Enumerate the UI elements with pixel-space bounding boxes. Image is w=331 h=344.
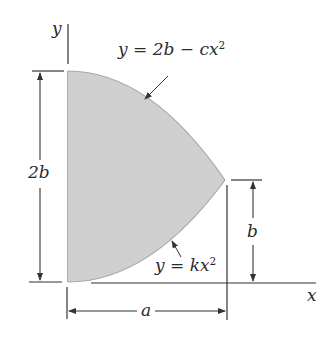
upper-eq-term-a: 2b <box>153 39 175 59</box>
lower-eq-equals: = <box>170 255 184 275</box>
x-axis-label: x <box>307 287 317 304</box>
upper-eq-exponent: 2 <box>219 39 226 51</box>
upper-eq-equals: = <box>133 39 147 59</box>
upper-eq-minus: − <box>180 39 194 59</box>
upper-curve-equation: y = 2b − cx2 <box>118 40 225 58</box>
lower-eq-lhs: y <box>155 255 165 275</box>
upper-eq-term-b: cx <box>199 39 218 59</box>
y-axis-label: y <box>52 20 62 37</box>
leader-arrow-upper <box>145 76 168 99</box>
diagram-figure: y x y = 2b − cx2 y = kx2 2b b a <box>0 0 331 344</box>
upper-eq-lhs: y <box>118 39 128 59</box>
dimension-label-2b: 2b <box>28 164 50 181</box>
dimension-label-a: a <box>141 302 151 319</box>
dimension-label-b: b <box>247 223 258 240</box>
shaded-region <box>68 71 225 282</box>
lower-curve-equation: y = kx2 <box>155 256 216 274</box>
lower-eq-term: kx <box>190 255 210 275</box>
lower-eq-exponent: 2 <box>210 255 217 267</box>
